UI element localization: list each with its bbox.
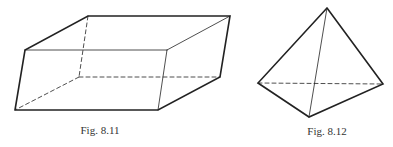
tetrahedron-hidden-edge (258, 83, 383, 84)
parallelepiped-outline (15, 16, 230, 110)
figure-caption-8-12: Fig. 8.12 (307, 125, 346, 137)
figure-caption-8-11: Fig. 8.11 (80, 124, 119, 136)
top-right-edge (167, 16, 230, 50)
tetrahedron-figure (258, 8, 383, 117)
tetrahedron-outline (258, 8, 383, 117)
front-right-edge (158, 50, 167, 110)
hidden-edges (15, 16, 220, 110)
parallelepiped-figure (15, 16, 230, 110)
